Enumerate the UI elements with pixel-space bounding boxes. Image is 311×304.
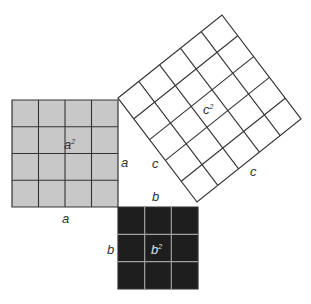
side-label-a-right: a [121,155,128,170]
pythagoras-diagram: a2 b2 c2 a a b b c c [0,0,311,304]
square-a [12,100,118,207]
side-label-c-lower-left: c [152,156,159,171]
side-label-c-lower-right: c [250,164,257,179]
side-label-b-left: b [107,242,114,257]
side-label-b-top: b [152,189,159,204]
side-label-a-bottom: a [62,211,69,226]
